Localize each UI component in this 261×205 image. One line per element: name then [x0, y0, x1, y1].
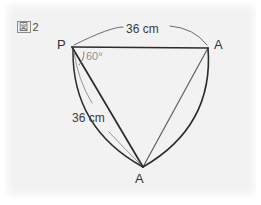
- figure-caption-kanji: 図: [17, 21, 31, 33]
- dimension-label-top: 36 cm: [126, 23, 159, 35]
- top-dimension-leader-left: [74, 27, 123, 45]
- figure-caption: 図2: [17, 21, 39, 33]
- edge-a-right-to-a-bottom: [143, 48, 208, 167]
- top-dimension-leader-right: [170, 26, 207, 45]
- angle-label-60-degrees: 60°: [86, 51, 103, 62]
- edge-p-to-a-bottom: [72, 47, 143, 167]
- vertex-label-a-right: A: [214, 38, 223, 51]
- vertex-label-a-bottom: A: [135, 172, 144, 185]
- edge-p-to-a-right: [72, 47, 208, 48]
- figure-caption-number: 2: [33, 21, 40, 33]
- vertex-label-p: P: [57, 38, 66, 51]
- dimension-label-left: 36 cm: [72, 112, 105, 124]
- figure-container: 図2 36 cm 36 cm 60° P A A: [0, 0, 261, 205]
